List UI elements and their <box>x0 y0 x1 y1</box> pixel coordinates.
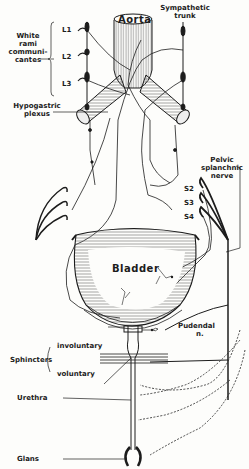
label-sympathetic-trunk: Sympathetic trunk <box>160 4 210 20</box>
label-hypogastric-line1: Hypogastric <box>6 102 68 110</box>
label-s2: S2 <box>184 185 194 193</box>
left-sacral-nerves <box>36 188 67 241</box>
label-pelvic-line1: Pelvic <box>196 156 248 164</box>
label-pudendal-line1: Pudendal <box>178 322 215 330</box>
label-white-rami-line4: cantes <box>8 56 48 64</box>
label-white-rami-line1: White <box>8 32 48 40</box>
label-hypogastric-plexus: Hypogastric plexus <box>6 102 68 118</box>
label-pelvic-line2: splanchnic <box>196 164 248 172</box>
label-hypogastric-line2: plexus <box>6 110 68 118</box>
label-s3: S3 <box>184 199 194 207</box>
label-aorta: Aorta <box>118 14 152 25</box>
label-pudendal-line2: n. <box>178 330 215 338</box>
urethra <box>100 326 168 466</box>
label-l3: L3 <box>62 80 71 88</box>
label-l1: L1 <box>62 26 71 34</box>
label-white-rami-line3: communi- <box>8 48 48 56</box>
label-l2: L2 <box>62 53 71 61</box>
afferent-nerves <box>138 330 245 455</box>
label-sphincters: Sphincters <box>10 356 52 364</box>
aorta <box>74 14 192 126</box>
label-pelvic-line3: nerve <box>196 172 248 180</box>
bladder <box>72 229 199 330</box>
label-voluntary: voluntary <box>57 370 95 378</box>
label-involuntary: involuntary <box>57 342 102 350</box>
label-glans: Glans <box>17 455 39 463</box>
label-urethra: Urethra <box>17 394 47 402</box>
label-white-rami-communicantes: White rami communi- cantes <box>8 32 48 64</box>
label-pudendal-nerve: Pudendal n. <box>178 322 215 338</box>
label-pelvic-splanchnic-nerve: Pelvic splanchnic nerve <box>196 156 248 180</box>
label-sympathetic-trunk-line2: trunk <box>160 12 210 20</box>
label-sympathetic-trunk-line1: Sympathetic <box>160 4 210 12</box>
label-white-rami-line2: rami <box>8 40 48 48</box>
label-bladder: Bladder <box>112 263 159 274</box>
label-s4: S4 <box>184 213 194 221</box>
